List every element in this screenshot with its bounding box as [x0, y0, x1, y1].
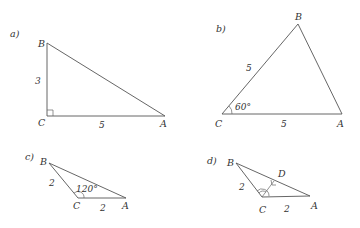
vertex-a-label: A — [336, 118, 344, 129]
right-angle-marker — [47, 110, 53, 116]
side-bc-length: 2 — [238, 182, 245, 192]
vertex-d-label: D — [277, 168, 286, 179]
figure-c: c) B C A 2 2 120° — [25, 151, 129, 213]
figure-c-label: c) — [25, 151, 34, 162]
angle-c-value: 120° — [76, 184, 98, 194]
triangle-a — [47, 43, 165, 116]
side-bc-length: 3 — [35, 76, 41, 86]
vertex-a-label: A — [159, 118, 167, 129]
side-ca-length: 2 — [283, 204, 290, 214]
vertex-a-label: A — [121, 200, 129, 211]
vertex-b-label: B — [226, 157, 234, 168]
vertex-c-label: C — [73, 200, 81, 211]
figure-a-label: a) — [10, 28, 20, 39]
figure-b-label: b) — [216, 23, 226, 34]
vertex-c-label: C — [259, 204, 267, 215]
vertex-c-label: C — [215, 118, 223, 129]
angle-arc — [229, 106, 232, 114]
side-ca-length: 5 — [99, 120, 105, 130]
vertex-b-label: B — [37, 38, 45, 49]
triangle-figures: a) B C A 3 5 b) B C A 5 5 60° c) B C A 2… — [0, 0, 360, 228]
figure-d: d) B D C A 2 2 — [207, 155, 318, 215]
side-ca-length: 2 — [99, 203, 106, 213]
vertex-b-label: B — [39, 156, 47, 167]
triangle-b — [222, 24, 342, 114]
vertex-c-label: C — [38, 117, 46, 128]
figure-b: b) B C A 5 5 60° — [215, 11, 344, 129]
vertex-a-label: A — [310, 200, 318, 211]
vertex-b-label: B — [294, 11, 302, 22]
figure-a: a) B C A 3 5 — [10, 28, 167, 130]
angle-c-value: 60° — [235, 102, 251, 112]
figure-d-label: d) — [207, 155, 217, 166]
side-bc-length: 2 — [48, 178, 55, 188]
side-cb-length: 5 — [246, 63, 252, 73]
side-ca-length: 5 — [281, 119, 287, 129]
triangle-d — [236, 163, 310, 197]
